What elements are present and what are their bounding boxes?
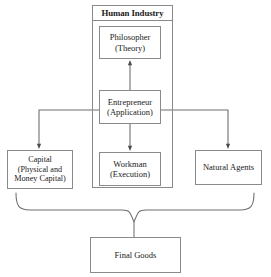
node-capital-line-2: (Physical and: [18, 165, 62, 175]
node-philosopher[interactable]: Philosopher (Theory): [99, 26, 161, 59]
human-industry-title-label: Human Industry: [102, 8, 164, 18]
node-workman-line-1: Workman: [113, 159, 146, 169]
node-workman-line-2: (Execution): [110, 169, 150, 179]
human-industry-title: Human Industry: [92, 5, 173, 21]
curly-brace-to-final-goods: [16, 193, 254, 222]
node-capital-line-3: Money Capital): [14, 174, 66, 184]
node-final-goods[interactable]: Final Goods: [90, 237, 181, 273]
node-capital-line-1: Capital: [28, 155, 52, 165]
node-natural-agents[interactable]: Natural Agents: [195, 150, 262, 185]
node-entrepreneur-line-2: (Application): [107, 107, 153, 117]
node-natural-agents-line-1: Natural Agents: [203, 162, 254, 172]
node-workman[interactable]: Workman (Execution): [99, 152, 161, 186]
node-philosopher-line-1: Philosopher: [110, 32, 151, 42]
node-final-goods-line-1: Final Goods: [115, 250, 157, 260]
node-entrepreneur[interactable]: Entrepreneur (Application): [99, 90, 161, 124]
node-entrepreneur-line-1: Entrepreneur: [108, 97, 152, 107]
node-philosopher-line-2: (Theory): [115, 43, 145, 53]
edge-entrepreneur-to-capital: [39, 110, 99, 147]
diagram-canvas: Human Industry Philosopher (Theory) Entr…: [0, 0, 271, 277]
node-capital[interactable]: Capital (Physical and Money Capital): [7, 150, 73, 189]
